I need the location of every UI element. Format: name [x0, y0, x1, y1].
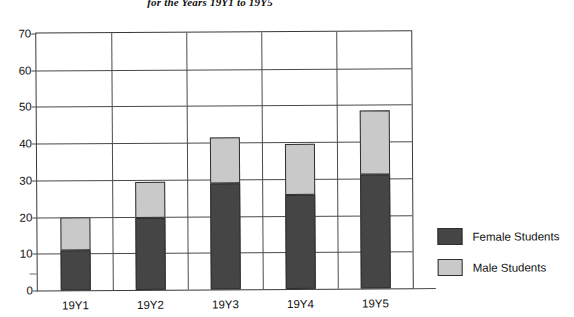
y-tick-label: 20 [20, 211, 33, 223]
y-tick-label: 40 [19, 138, 32, 150]
bar-19Y2 [135, 181, 166, 289]
x-tick-label-19Y3: 19Y3 [212, 298, 239, 310]
legend-swatch-male [438, 259, 463, 276]
y-tick-label: 70 [18, 28, 31, 40]
chart-legend: Female Students Male Students [437, 227, 572, 290]
bar-19Y1 [60, 217, 90, 291]
x-axis-extension [414, 288, 436, 289]
x-tick-label-19Y2: 19Y2 [137, 299, 164, 311]
bar-segment-male [284, 144, 314, 196]
y-tick-label: 60 [19, 64, 32, 76]
x-gridline [261, 32, 264, 289]
y-tick-mark [32, 180, 37, 181]
bar-segment-male [359, 110, 389, 174]
bar-19Y4 [284, 144, 315, 289]
bar-segment-female [285, 195, 316, 289]
y-tick-mark [31, 70, 36, 71]
chart-plot-wrapper: 01020304050607019Y119Y219Y319Y419Y5 Fema… [0, 0, 574, 317]
y-gridline [36, 68, 411, 71]
bar-segment-female [360, 175, 391, 289]
x-gridline [336, 32, 339, 289]
y-tick-label: 50 [19, 101, 32, 113]
bar-segment-female [135, 218, 165, 290]
y-tick-label: 30 [19, 174, 32, 186]
legend-item-female: Female Students [437, 227, 572, 245]
y-tick-label: 0 [26, 285, 32, 297]
y-tick-mark [32, 144, 37, 145]
y-gridline [37, 105, 412, 108]
x-tick-label-19Y5: 19Y5 [362, 297, 389, 309]
legend-label-female: Female Students [472, 230, 559, 243]
y-tick-mark [33, 254, 38, 255]
x-tick-label-19Y1: 19Y1 [62, 299, 89, 311]
bar-19Y3 [209, 137, 240, 290]
bar-segment-female [60, 250, 90, 291]
y-tick-mark [33, 291, 38, 292]
x-gridline [186, 33, 189, 290]
legend-item-male: Male Students [438, 258, 573, 276]
bar-segment-male [209, 137, 239, 183]
chart-plot-area: 01020304050607019Y119Y219Y319Y419Y5 [35, 30, 414, 291]
bar-segment-male [60, 217, 90, 250]
bar-19Y5 [359, 110, 390, 288]
bar-segment-female [210, 183, 241, 290]
legend-swatch-female [437, 228, 462, 245]
x-tick-label-19Y4: 19Y4 [287, 298, 314, 310]
legend-label-male: Male Students [473, 261, 547, 273]
bar-segment-male [135, 181, 165, 218]
y-tick-mark [31, 34, 36, 35]
y-tick-mark [32, 217, 37, 218]
y-axis-stub [30, 274, 37, 275]
y-tick-mark [32, 107, 37, 108]
x-gridline [111, 33, 114, 290]
y-tick-label: 10 [20, 248, 33, 260]
